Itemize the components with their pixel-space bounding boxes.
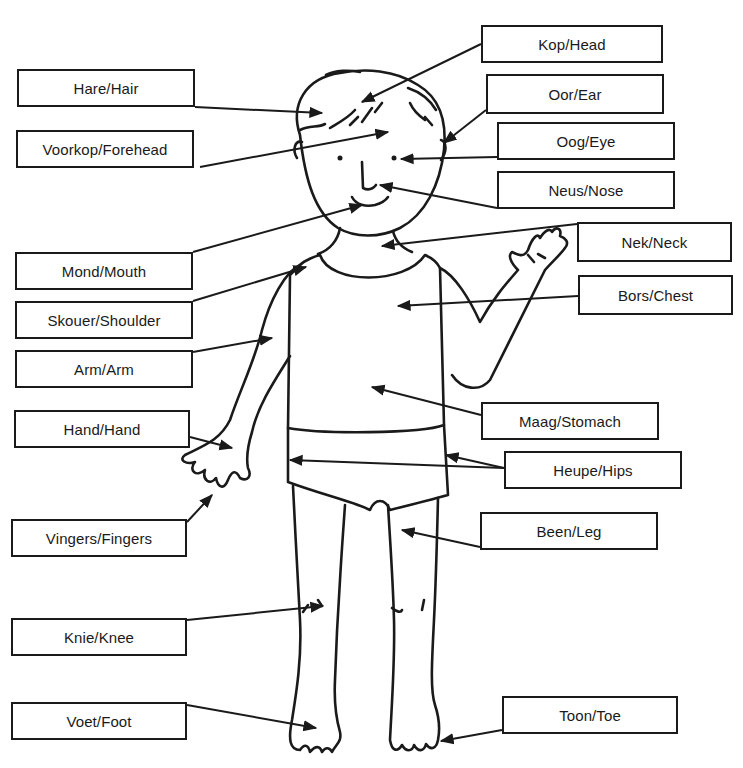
label-leg: Been/Leg [480,512,658,550]
mouth [352,197,388,206]
label-hand: Hand/Hand [14,410,190,448]
label-foot: Voet/Foot [11,702,187,740]
label-text: Voorkop/Forehead [42,141,167,158]
label-text: Skouer/Shoulder [47,312,160,329]
label-text: Voet/Foot [66,713,131,730]
label-text: Vingers/Fingers [46,530,152,547]
label-text: Neus/Nose [548,182,623,199]
neck [318,228,412,254]
body-parts-diagram: Kop/HeadHare/HairOor/EarVoorkop/Forehead… [0,0,743,768]
arrow-hand [190,437,232,448]
left-leg [290,486,345,752]
arrow-leg [402,530,480,547]
palm-lines [528,254,545,262]
arrow-foot [187,705,316,728]
label-text: Been/Leg [536,523,601,540]
label-toe: Toon/Toe [502,696,678,734]
arrow-chest [398,296,578,306]
label-text: Nek/Neck [622,234,688,251]
arrow-fingers [187,495,212,522]
label-fingers: Vingers/Fingers [11,519,187,557]
label-nose: Neus/Nose [497,171,675,209]
arrow-stomach [372,387,481,415]
arrow-forehead [200,132,388,167]
arrow-eye [401,157,497,159]
label-text: Bors/Chest [618,287,693,304]
label-chest: Bors/Chest [578,275,733,315]
right-arm [440,229,567,388]
nose [362,162,376,189]
label-text: Mond/Mouth [62,263,146,280]
arrow-nose [380,185,497,208]
label-text: Oog/Eye [556,133,615,150]
label-text: Heupe/Hips [553,462,632,479]
label-shoulder: Skouer/Shoulder [15,301,193,339]
label-text: Maag/Stomach [519,413,621,430]
arrow-hair [195,107,322,113]
arrow-neck [382,224,577,246]
arrow-arm [193,338,272,352]
label-text: Oor/Ear [548,86,601,103]
label-head: Kop/Head [481,25,663,63]
label-stomach: Maag/Stomach [481,402,659,440]
label-arm: Arm/Arm [15,350,193,388]
arrow-ear [444,110,486,143]
arrow-toe [441,730,502,741]
label-forehead: Voorkop/Forehead [16,130,194,168]
vest [288,255,444,432]
label-hair: Hare/Hair [17,69,195,107]
label-neck: Nek/Neck [577,222,732,262]
label-text: Arm/Arm [74,361,134,378]
label-mouth: Mond/Mouth [15,252,193,290]
label-text: Toon/Toe [559,707,621,724]
label-hips: Heupe/Hips [504,451,682,489]
label-eye: Oog/Eye [497,122,675,160]
label-ear: Oor/Ear [486,74,664,114]
label-text: Hare/Hair [73,80,138,97]
right-eye-dot [392,156,397,161]
pants [288,425,448,510]
label-text: Knie/Knee [64,629,134,646]
left-eye-dot [338,156,343,161]
label-knee: Knie/Knee [11,618,187,656]
label-text: Kop/Head [538,36,606,53]
label-text: Hand/Hand [64,421,141,438]
